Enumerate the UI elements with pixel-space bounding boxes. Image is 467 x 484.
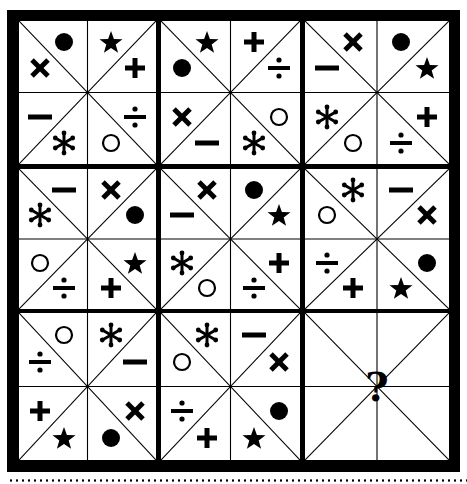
cell-divider-lines [305, 169, 449, 309]
minus-icon [167, 200, 197, 230]
star-icon [264, 200, 294, 230]
circle-open-icon [25, 248, 55, 278]
plus-icon [192, 423, 222, 453]
minus-icon [192, 128, 222, 158]
plus-icon [25, 396, 55, 426]
circle-open-icon [312, 200, 342, 230]
times-icon [167, 102, 197, 132]
asterisk-icon [312, 102, 342, 132]
times-icon [412, 200, 442, 230]
divide-icon [25, 347, 55, 377]
times-icon [25, 53, 55, 83]
puzzle-cell-r3c1 [19, 313, 156, 460]
question-mark-icon: ? [365, 367, 388, 407]
circle-filled-icon [412, 248, 442, 278]
divide-icon [386, 128, 416, 158]
cell-divider-lines [161, 169, 300, 309]
dotted-separator [8, 479, 467, 482]
times-icon [338, 27, 368, 57]
cell-divider-lines [161, 313, 300, 460]
cell-divider-lines [19, 21, 156, 164]
asterisk-icon [25, 200, 55, 230]
cell-divider-lines [19, 169, 156, 309]
plus-icon [412, 102, 442, 132]
star-icon [49, 423, 79, 453]
minus-icon [25, 102, 55, 132]
times-icon [264, 347, 294, 377]
star-icon [386, 273, 416, 303]
asterisk-icon [167, 248, 197, 278]
puzzle-cell-r3c3: ? [305, 313, 449, 460]
circle-open-icon [338, 128, 368, 158]
star-icon [412, 53, 442, 83]
plus-icon [338, 273, 368, 303]
puzzle-cell-r1c3 [305, 21, 449, 164]
puzzle-cell-r3c2 [161, 313, 300, 460]
divide-icon [239, 273, 269, 303]
puzzle-cell-r1c1 [19, 21, 156, 164]
puzzle-cell-r2c1 [19, 169, 156, 309]
plus-icon [96, 273, 126, 303]
puzzle-cell-r2c2 [161, 169, 300, 309]
circle-filled-icon [167, 53, 197, 83]
plus-icon [120, 53, 150, 83]
divide-icon [312, 248, 342, 278]
circle-open-icon [167, 347, 197, 377]
asterisk-icon [338, 175, 368, 205]
minus-icon [120, 347, 150, 377]
divide-icon [167, 396, 197, 426]
asterisk-icon [239, 128, 269, 158]
puzzle-cell-r2c3 [305, 169, 449, 309]
puzzle-grid: ? [19, 21, 449, 460]
puzzle-cell-r1c2 [161, 21, 300, 164]
asterisk-icon [49, 128, 79, 158]
circle-filled-icon [120, 200, 150, 230]
circle-filled-icon [96, 423, 126, 453]
cell-divider-lines [161, 21, 300, 164]
circle-open-icon [96, 128, 126, 158]
star-icon [239, 423, 269, 453]
minus-icon [312, 53, 342, 83]
cell-divider-lines [305, 21, 449, 164]
cell-divider-lines [19, 313, 156, 460]
divide-icon [264, 53, 294, 83]
